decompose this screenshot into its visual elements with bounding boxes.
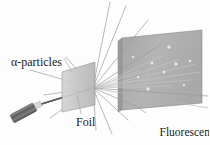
gold-foil [62, 62, 95, 112]
flash-7 [146, 87, 150, 91]
source-body [10, 103, 37, 123]
foil-face [62, 62, 95, 112]
label-alpha-particles: α-particles [11, 56, 62, 69]
alpha-particle-source [10, 101, 43, 123]
flash-2 [150, 61, 154, 65]
label-fluorescent-screen: Fluorescent screen [148, 114, 209, 145]
label-fluorescent-screen-line1: Fluorescent [160, 126, 210, 138]
rutherford-scattering-figure: α-particles Foil Fluorescent screen [0, 0, 209, 145]
flash-5 [162, 70, 166, 74]
scatter-up-1 [93, 2, 110, 88]
label-foil: Foil [76, 116, 95, 129]
flash-6 [136, 75, 140, 79]
flash-1 [167, 45, 171, 49]
flash-9 [131, 55, 134, 58]
flash-4 [188, 59, 192, 63]
flash-8 [182, 83, 186, 87]
flash-3 [174, 62, 178, 66]
screen-face [122, 30, 202, 110]
